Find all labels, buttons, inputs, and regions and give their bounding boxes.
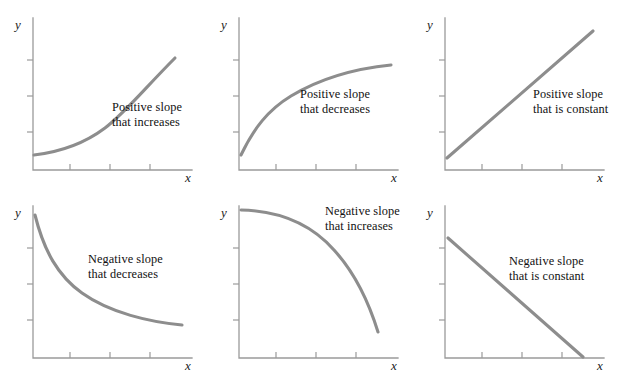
caption-negative-slope-constant: Negative slope that is constant bbox=[509, 254, 584, 284]
caption-line-1: Positive slope bbox=[112, 100, 182, 115]
caption-line-1: Negative slope bbox=[509, 254, 584, 269]
caption-line-1: Positive slope bbox=[533, 87, 608, 102]
caption-line-2: that decreases bbox=[300, 102, 370, 117]
caption-line-2: that is constant bbox=[533, 102, 608, 117]
x-axis-label: x bbox=[596, 170, 603, 185]
caption-line-2: that increases bbox=[325, 219, 400, 234]
y-axis-label: y bbox=[13, 17, 21, 32]
y-axis-label: y bbox=[425, 205, 433, 220]
axes bbox=[33, 206, 192, 358]
caption-negative-slope-increases: Negative slope that increases bbox=[325, 204, 400, 234]
chart-positive-slope-increases: y x bbox=[0, 0, 206, 187]
panel-positive-slope-constant: y x Positive slope that is constant bbox=[412, 0, 618, 187]
x-axis-label: x bbox=[184, 170, 191, 185]
x-axis-label: x bbox=[390, 358, 397, 373]
caption-line-1: Positive slope bbox=[300, 87, 370, 102]
slope-types-figure: y x Positive slope that increases y x Po… bbox=[0, 0, 619, 375]
x-axis-label: x bbox=[184, 358, 191, 373]
panel-positive-slope-increases: y x Positive slope that increases bbox=[0, 0, 206, 187]
y-axis-label: y bbox=[425, 17, 433, 32]
x-axis-label: x bbox=[390, 170, 397, 185]
panel-positive-slope-decreases: y x Positive slope that decreases bbox=[206, 0, 412, 187]
caption-line-2: that increases bbox=[112, 115, 182, 130]
panel-negative-slope-constant: y x Negative slope that is constant bbox=[412, 188, 618, 375]
caption-negative-slope-decreases: Negative slope that decreases bbox=[88, 252, 163, 282]
panel-negative-slope-decreases: y x Negative slope that decreases bbox=[0, 188, 206, 375]
caption-positive-slope-increases: Positive slope that increases bbox=[112, 100, 182, 130]
y-axis-label: y bbox=[13, 205, 21, 220]
caption-positive-slope-decreases: Positive slope that decreases bbox=[300, 87, 370, 117]
caption-line-2: that is constant bbox=[509, 269, 584, 284]
y-axis-label: y bbox=[219, 17, 227, 32]
caption-line-1: Negative slope bbox=[88, 252, 163, 267]
caption-line-1: Negative slope bbox=[325, 204, 400, 219]
axes bbox=[33, 18, 192, 170]
caption-positive-slope-constant: Positive slope that is constant bbox=[533, 87, 608, 117]
panel-negative-slope-increases: y x Negative slope that increases bbox=[206, 188, 412, 375]
x-axis-label: x bbox=[596, 358, 603, 373]
caption-line-2: that decreases bbox=[88, 267, 163, 282]
y-axis-label: y bbox=[219, 205, 227, 220]
